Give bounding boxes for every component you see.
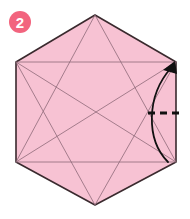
step-badge-label: 2: [16, 14, 24, 31]
figure-canvas: Origami hexagon crease pattern diagram 2: [0, 0, 190, 219]
origami-step-diagram: Origami hexagon crease pattern diagram 2: [0, 0, 190, 219]
step-number-badge: 2: [9, 11, 31, 33]
